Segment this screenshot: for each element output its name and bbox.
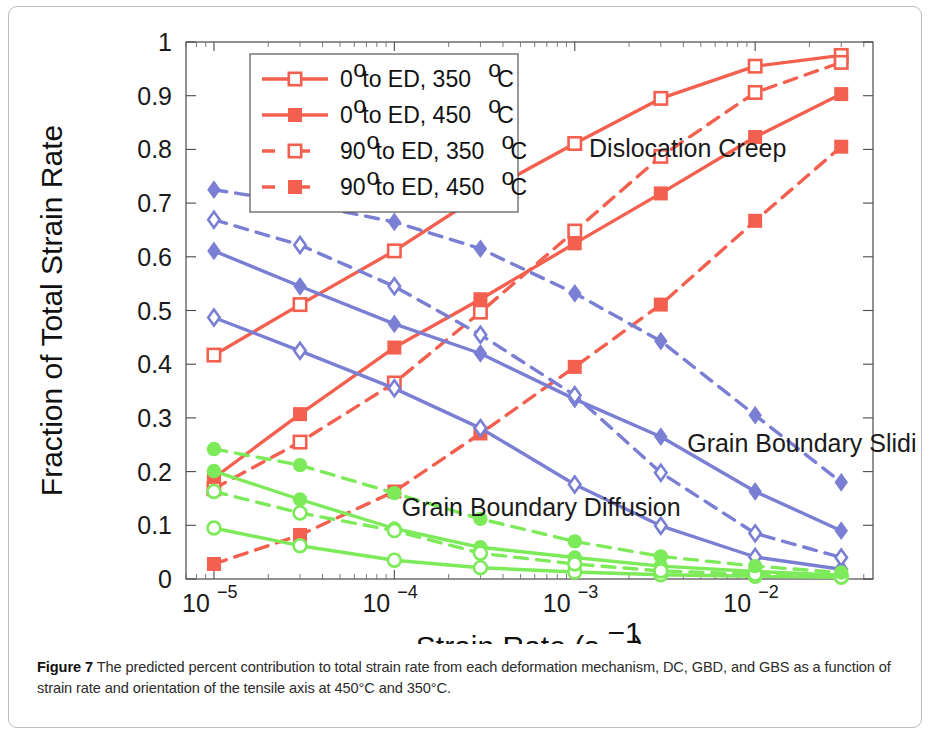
- data-point-marker: [569, 225, 581, 237]
- y-tick-label: 0.7: [137, 189, 172, 217]
- data-point-marker: [835, 141, 847, 153]
- data-point-marker: [294, 298, 306, 310]
- data-point-marker: [749, 215, 761, 227]
- strain-rate-chart: 00.10.20.30.40.50.60.70.80.9110−510−410−…: [18, 14, 918, 644]
- data-point-marker: [568, 535, 581, 548]
- legend-label-2: 90: [340, 138, 366, 164]
- data-point-marker: [474, 547, 487, 560]
- data-point-marker: [208, 485, 221, 498]
- data-point-marker: [208, 522, 221, 535]
- data-point-marker: [294, 408, 306, 420]
- data-point-marker: [388, 554, 401, 567]
- legend-label-rest-1: to ED, 450: [362, 102, 471, 128]
- data-point-marker: [569, 237, 581, 249]
- data-point-marker: [208, 558, 220, 570]
- data-point-marker: [655, 92, 667, 104]
- svg-text:−2: −2: [758, 582, 779, 602]
- figure-caption-label: Figure 7: [37, 659, 93, 675]
- data-point-marker: [835, 88, 847, 100]
- data-point-marker: [569, 137, 581, 149]
- data-point-marker: [289, 109, 301, 121]
- figure-caption: Figure 7 The predicted percent contribut…: [37, 657, 899, 700]
- svg-text:−5: −5: [217, 582, 238, 602]
- x-tick-label: 10−2: [723, 582, 778, 617]
- figure-page: 00.10.20.30.40.50.60.70.80.9110−510−410−…: [0, 0, 930, 735]
- data-point-marker: [294, 436, 306, 448]
- data-point-marker: [835, 566, 848, 579]
- y-tick-label: 0.4: [137, 350, 172, 378]
- svg-text:Strain Rate (s: Strain Rate (s: [416, 630, 599, 644]
- legend-unit-2: C: [511, 138, 528, 164]
- figure-caption-text: The predicted percent contribution to to…: [37, 659, 891, 696]
- data-point-marker: [654, 565, 667, 578]
- svg-text:10: 10: [182, 589, 210, 617]
- y-tick-label: 0: [158, 565, 172, 593]
- data-point-marker: [208, 349, 220, 361]
- svg-text:−3: −3: [578, 582, 599, 602]
- y-tick-label: 0.1: [137, 511, 172, 539]
- data-point-marker: [474, 561, 487, 574]
- svg-text:10: 10: [543, 589, 571, 617]
- data-point-marker: [208, 465, 221, 478]
- legend-label-0: 0: [340, 66, 353, 92]
- figure-card: 00.10.20.30.40.50.60.70.80.9110−510−410−…: [8, 6, 922, 728]
- annotation-0: Dislocation Creep: [589, 134, 786, 162]
- y-tick-label: 0.2: [137, 458, 172, 486]
- data-point-marker: [294, 507, 307, 520]
- y-tick-label: 0.5: [137, 297, 172, 325]
- data-point-marker: [388, 245, 400, 257]
- data-point-marker: [294, 459, 307, 472]
- legend-label-3: 90: [340, 174, 366, 200]
- data-point-marker: [749, 560, 762, 573]
- data-point-marker: [388, 524, 401, 537]
- data-point-marker: [388, 487, 401, 500]
- svg-text:): ): [634, 630, 644, 644]
- legend-unit-3: C: [511, 174, 528, 200]
- y-tick-label: 0.6: [137, 243, 172, 271]
- y-tick-label: 0.8: [137, 135, 172, 163]
- x-tick-label: 10−5: [182, 582, 237, 617]
- data-point-marker: [208, 443, 221, 456]
- svg-text:−4: −4: [397, 582, 418, 602]
- svg-text:10: 10: [362, 589, 390, 617]
- annotation-1: Grain Boundary Sliding: [687, 429, 918, 457]
- chart-figure: 00.10.20.30.40.50.60.70.80.9110−510−410−…: [18, 14, 918, 644]
- data-point-marker: [835, 56, 847, 68]
- data-point-marker: [654, 550, 667, 563]
- data-point-marker: [655, 298, 667, 310]
- data-point-marker: [294, 539, 307, 552]
- data-point-marker: [294, 493, 307, 506]
- data-point-marker: [749, 60, 761, 72]
- annotation-2: Grain Boundary Diffusion: [402, 493, 681, 521]
- legend-label-1: 0: [340, 102, 353, 128]
- data-point-marker: [749, 86, 761, 98]
- data-point-marker: [568, 558, 581, 571]
- data-point-marker: [655, 187, 667, 199]
- y-tick-label: 0.9: [137, 82, 172, 110]
- x-tick-label: 10−3: [543, 582, 598, 617]
- svg-text:10: 10: [723, 589, 751, 617]
- data-point-marker: [289, 145, 301, 157]
- y-tick-label: 0.3: [137, 404, 172, 432]
- legend-unit-0: C: [497, 66, 514, 92]
- data-point-marker: [289, 181, 301, 193]
- x-axis-title: Strain Rate (s−1): [416, 616, 644, 644]
- data-point-marker: [289, 73, 301, 85]
- data-point-marker: [569, 361, 581, 373]
- y-axis-title: Fraction of Total Strain Rate: [35, 125, 68, 496]
- legend-label-rest-2: to ED, 350: [376, 138, 485, 164]
- legend-label-rest-3: to ED, 450: [376, 174, 485, 200]
- legend-label-rest-0: to ED, 350: [362, 66, 471, 92]
- y-tick-label: 1: [158, 28, 172, 56]
- x-tick-label: 10−4: [362, 582, 417, 617]
- data-point-marker: [388, 341, 400, 353]
- data-point-marker: [474, 293, 486, 305]
- legend-unit-1: C: [497, 102, 514, 128]
- data-point-marker: [474, 306, 486, 318]
- chart-legend: 0o to ED, 350oC0o to ED, 450oC90o to ED,…: [250, 54, 527, 212]
